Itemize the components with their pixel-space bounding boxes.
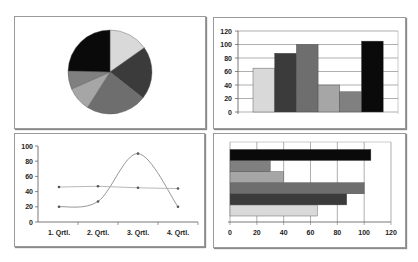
y-tick-label: 80: [25, 158, 33, 165]
y-tick-label: 40: [25, 188, 33, 195]
x-tick-label: 40: [280, 229, 288, 236]
bar: [230, 205, 317, 216]
bar: [253, 68, 275, 112]
bar: [230, 194, 347, 205]
y-tick-label: 0: [29, 219, 33, 226]
data-marker: [137, 152, 140, 155]
bar: [318, 85, 340, 112]
y-tick-label: 40: [224, 82, 232, 89]
bar: [230, 172, 284, 183]
series-line: [59, 154, 178, 208]
y-tick-label: 20: [224, 95, 232, 102]
data-marker: [58, 186, 61, 189]
data-marker: [137, 187, 140, 190]
x-tick-label: 1. Qrtl.: [48, 229, 70, 237]
line-chart: [35, 146, 198, 225]
x-tick-label: 20: [253, 229, 261, 236]
horizontal-bar-chart: [228, 142, 391, 225]
x-tick-label: 4. Qrtl.: [167, 229, 189, 237]
x-tick-label: 80: [333, 229, 341, 236]
pie-chart: [68, 30, 152, 114]
y-tick-label: 20: [25, 203, 33, 210]
y-tick-label: 100: [21, 143, 33, 150]
data-marker: [97, 200, 100, 203]
chart-canvas: 0204060801001200204060801001. Qrtl.2. Qr…: [0, 0, 418, 262]
bar: [230, 183, 364, 194]
data-marker: [58, 206, 61, 209]
x-tick-label: 2. Qrtl.: [87, 229, 109, 237]
y-tick-label: 80: [224, 55, 232, 62]
y-tick-label: 120: [220, 28, 232, 35]
data-marker: [97, 185, 100, 188]
x-tick-label: 100: [358, 229, 370, 236]
x-tick-label: 3. Qrtl.: [127, 229, 149, 237]
data-marker: [177, 206, 180, 209]
y-tick-label: 60: [25, 173, 33, 180]
y-tick-label: 100: [220, 41, 232, 48]
data-marker: [177, 187, 180, 190]
y-tick-label: 0: [228, 109, 232, 116]
bar: [275, 53, 297, 112]
bar: [296, 45, 318, 113]
x-tick-label: 60: [307, 229, 315, 236]
series-line: [59, 186, 178, 188]
bar: [362, 41, 384, 112]
pie-slice: [68, 30, 110, 72]
x-tick-label: 120: [385, 229, 397, 236]
x-tick-label: 0: [228, 229, 232, 236]
y-tick-label: 60: [224, 68, 232, 75]
bar: [230, 161, 270, 172]
bar: [340, 92, 362, 112]
column-chart: [235, 31, 398, 114]
bar: [230, 149, 371, 160]
